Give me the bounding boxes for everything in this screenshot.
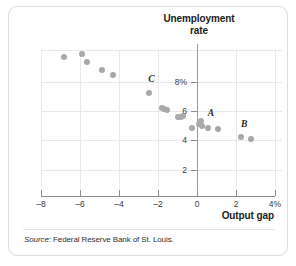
x-axis-title: Output gap	[159, 210, 274, 221]
x-tick-mark	[80, 190, 81, 196]
x-tick-label: –8	[28, 199, 54, 209]
gridline-horizontal	[41, 140, 282, 141]
data-point	[199, 123, 205, 129]
data-point	[248, 136, 254, 142]
data-point	[180, 113, 186, 119]
data-point	[110, 72, 116, 78]
y-tick-mark	[191, 140, 197, 141]
y-axis-title-line1: Unemployment	[129, 13, 269, 25]
y-tick-mark	[191, 170, 197, 171]
data-point	[79, 51, 85, 57]
data-point	[146, 90, 152, 96]
x-tick-label: –6	[67, 199, 93, 209]
point-label-b: B	[241, 119, 247, 129]
data-point	[215, 126, 221, 132]
gridline-vertical	[119, 50, 120, 190]
gridline-horizontal	[41, 170, 282, 171]
source-text: Federal Reserve Bank of St. Louis.	[51, 235, 174, 244]
y-axis-title: Unemployment rate	[129, 13, 269, 36]
data-point	[61, 54, 67, 60]
gridline-vertical	[158, 50, 159, 190]
data-point	[205, 125, 211, 131]
gridline-vertical	[275, 50, 276, 190]
x-tick-label: –2	[145, 199, 171, 209]
y-tick-label: 2	[163, 165, 187, 175]
x-tick-label: 4%	[262, 199, 288, 209]
x-tick-mark	[119, 190, 120, 196]
data-point	[238, 134, 244, 140]
gridline-horizontal	[41, 82, 282, 83]
x-tick-mark	[275, 190, 276, 196]
x-tick-label: 0	[184, 199, 210, 209]
x-tick-mark	[236, 190, 237, 196]
source-note: Source: Federal Reserve Bank of St. Loui…	[24, 235, 174, 244]
y-tick-label: 8%	[163, 77, 187, 87]
x-axis-line	[41, 196, 275, 197]
chart-figure: Unemployment rate –8–6–4–2024% 8%642 CAB…	[8, 6, 288, 256]
plot-area: –8–6–4–2024% 8%642 CAB	[33, 44, 288, 190]
source-lead: Source:	[24, 235, 51, 244]
gridline-vertical	[236, 50, 237, 190]
point-label-c: C	[148, 74, 154, 84]
gridline-vertical	[80, 50, 81, 190]
data-point	[84, 59, 90, 65]
x-tick-mark	[41, 190, 42, 196]
data-point	[189, 125, 195, 131]
y-tick-mark	[191, 82, 197, 83]
x-tick-label: 2	[223, 199, 249, 209]
y-tick-label: 4	[163, 135, 187, 145]
point-label-a: A	[208, 108, 214, 118]
data-point	[99, 67, 105, 73]
x-tick-mark	[197, 190, 198, 196]
source-divider	[23, 229, 275, 230]
y-tick-mark	[191, 111, 197, 112]
y-axis-title-line2: rate	[129, 25, 269, 37]
x-tick-mark	[158, 190, 159, 196]
gridline-vertical	[41, 50, 42, 190]
x-tick-label: –4	[106, 199, 132, 209]
gridline-horizontal	[41, 50, 282, 51]
